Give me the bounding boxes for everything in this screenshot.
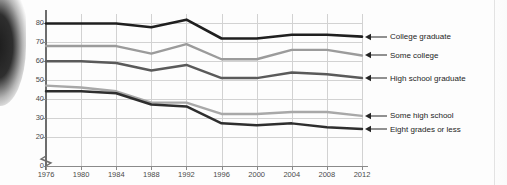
x-tick-mark (186, 166, 187, 170)
x-tick-mark (327, 166, 328, 170)
annotation-college-graduate: College graduate (365, 32, 451, 41)
y-tick-label: 30 (22, 114, 44, 122)
x-tick-label: 2000 (248, 171, 265, 179)
x-tick-label: 1996 (213, 171, 230, 179)
page-margin-tint (493, 0, 507, 185)
y-tick-label: 80 (22, 20, 44, 28)
arrow-left-icon (365, 32, 387, 41)
series-line (46, 91, 362, 129)
series-line (46, 86, 362, 116)
annotation-some-college: Some college (365, 51, 438, 60)
annotation-label: High school graduate (390, 74, 466, 82)
x-tick-label: 2008 (319, 171, 336, 179)
x-tick-mark (46, 166, 47, 170)
x-tick-mark (222, 166, 223, 170)
arrow-left-icon (365, 51, 387, 60)
y-tick-label: 60 (22, 57, 44, 65)
x-tick-mark (81, 166, 82, 170)
series-line (46, 44, 362, 59)
x-tick-mark (362, 166, 363, 170)
page-edge-line (494, 0, 495, 185)
y-tick-label: 40 (22, 95, 44, 103)
chart-figure: 203040506070800 197619801984198819921996… (0, 0, 507, 185)
x-tick-label: 1984 (108, 171, 125, 179)
arrow-left-icon (365, 111, 387, 120)
series-lines (46, 14, 362, 166)
x-tick-label: 1988 (143, 171, 160, 179)
page-spine-shadow (0, 0, 26, 106)
x-tick-mark (116, 166, 117, 170)
annotation-high-school-graduate: High school graduate (365, 74, 466, 83)
x-axis (44, 166, 368, 167)
x-tick-mark (292, 166, 293, 170)
annotation-label: Some high school (390, 112, 454, 120)
annotation-label: Eight grades or less (390, 125, 461, 133)
y-tick-label-zero: 0 (22, 162, 44, 170)
x-tick-label: 1976 (38, 171, 55, 179)
annotation-label: College graduate (390, 33, 451, 41)
x-tick-mark (151, 166, 152, 170)
annotation-some-high-school: Some high school (365, 111, 454, 120)
y-tick-label: 70 (22, 39, 44, 47)
arrow-left-icon (365, 125, 387, 134)
plot-area: 203040506070800 197619801984198819921996… (46, 14, 362, 146)
annotation-eight-grades-or-less: Eight grades or less (365, 125, 461, 134)
y-tick-label: 50 (22, 76, 44, 84)
x-tick-label: 2012 (354, 171, 371, 179)
annotation-label: Some college (390, 51, 438, 59)
x-tick-label: 2004 (283, 171, 300, 179)
arrow-left-icon (365, 74, 387, 83)
series-line (46, 20, 362, 39)
series-line (46, 61, 362, 78)
x-tick-mark (257, 166, 258, 170)
x-tick-label: 1992 (178, 171, 195, 179)
y-tick-label: 20 (22, 133, 44, 141)
x-tick-label: 1980 (73, 171, 90, 179)
